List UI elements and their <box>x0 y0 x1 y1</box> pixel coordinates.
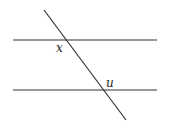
angle-label-u: u <box>106 76 114 90</box>
angle-label-x: x <box>56 41 63 55</box>
diagram-canvas: x u <box>0 0 169 133</box>
transversal-line <box>44 10 126 120</box>
